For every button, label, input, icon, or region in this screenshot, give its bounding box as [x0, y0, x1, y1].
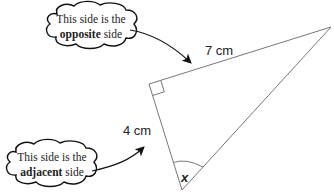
callout-bold: adjacent [20, 166, 62, 179]
callout-rest: side [101, 28, 122, 40]
callout-line1: This side is the [17, 151, 86, 163]
angle-label: x [180, 170, 189, 185]
callout-bold: opposite [60, 28, 101, 41]
arrow [92, 148, 143, 171]
triangle-diagram: 7 cm 4 cm x This side is the opposite si… [0, 0, 334, 196]
opposite-length-label: 7 cm [205, 43, 233, 58]
angle-arc [174, 161, 204, 167]
svg-text:opposite side: opposite side [60, 28, 122, 41]
adjacent-length-label: 4 cm [123, 123, 151, 138]
adjacent-callout: This side is the adjacent side [7, 139, 143, 186]
triangle [149, 27, 331, 190]
callout-rest: side [62, 166, 83, 178]
arrow [130, 30, 190, 62]
opposite-side [149, 27, 331, 84]
opposite-callout: This side is the opposite side [47, 1, 190, 62]
adjacent-side [149, 84, 182, 190]
svg-text:adjacent side: adjacent side [20, 166, 84, 179]
callout-line1: This side is the [56, 13, 125, 25]
svg-text:This side is the: This side is the [17, 151, 86, 163]
svg-text:This side is the: This side is the [56, 13, 125, 25]
